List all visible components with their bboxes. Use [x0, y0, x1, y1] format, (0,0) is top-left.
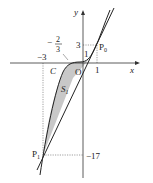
tick-x-1: 1: [95, 65, 100, 75]
y-axis-label: y: [73, 7, 78, 17]
point-p0-label: P0: [99, 42, 107, 53]
tick-x-neg3: −3: [37, 52, 47, 62]
y-axis-arrow-icon: [81, 10, 85, 15]
tick-y-3: 3: [76, 40, 81, 50]
tick-y-1: 1: [84, 49, 89, 59]
x-axis-label: x: [129, 65, 134, 75]
tangent-line: [37, 8, 114, 170]
frac-numerator: 2: [56, 35, 60, 44]
frac-leader: [63, 54, 68, 60]
graph-diagram: x y O −3 1 3 1 −17 − 2 3 P0 P1 C S1: [0, 0, 153, 183]
frac-minus: −: [47, 37, 52, 47]
frac-denominator: 3: [56, 45, 60, 54]
x-axis-arrow-icon: [135, 61, 140, 65]
tick-y-neg17: −17: [86, 151, 101, 161]
origin-label: O: [75, 67, 82, 77]
point-p1-label: P1: [32, 149, 40, 160]
curve-c-label: C: [50, 66, 57, 76]
